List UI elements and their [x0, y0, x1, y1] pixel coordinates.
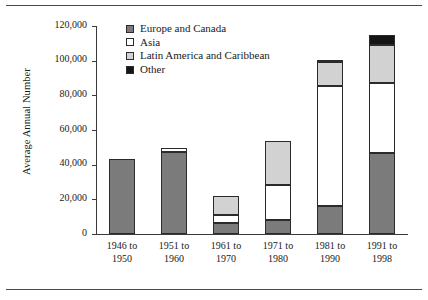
bar-segment[interactable]	[265, 220, 291, 234]
x-axis-tick-label: 1946 to1950	[96, 240, 148, 265]
figure: Average Annual Number 020,00040,00060,00…	[0, 0, 428, 300]
x-axis-tick-label: 1991 to1998	[356, 240, 408, 265]
x-axis-line	[96, 234, 408, 235]
bar-segment[interactable]	[161, 152, 187, 234]
stacked-bar[interactable]	[317, 26, 343, 234]
bar-segment[interactable]	[317, 206, 343, 234]
x-axis-tick-label: 1951 to1960	[148, 240, 200, 265]
bar-segment[interactable]	[317, 62, 343, 85]
legend-item[interactable]: Other	[126, 63, 270, 77]
bar-segment[interactable]	[317, 86, 343, 206]
bar-segment[interactable]	[109, 159, 135, 234]
y-axis-title: Average Annual Number	[21, 32, 32, 212]
bar-segment[interactable]	[213, 223, 239, 234]
figure-top-rule	[6, 5, 422, 6]
figure-bottom-rule	[6, 289, 422, 290]
legend-swatch-icon	[126, 66, 134, 74]
y-axis-tick-label: 80,000	[60, 88, 88, 99]
legend-swatch-icon	[126, 52, 134, 60]
legend-label: Europe and Canada	[140, 22, 226, 36]
bar-segment[interactable]	[161, 148, 187, 151]
y-axis-tick-label: 60,000	[60, 123, 88, 134]
x-axis-tick-label: 1981 to1990	[304, 240, 356, 265]
bar-segment[interactable]	[265, 141, 291, 184]
bar-group[interactable]	[369, 26, 395, 234]
legend-label: Asia	[140, 36, 160, 50]
legend: Europe and CanadaAsiaLatin America and C…	[126, 22, 270, 76]
y-axis-tick-label: 20,000	[60, 192, 88, 203]
bar-segment[interactable]	[213, 196, 239, 215]
y-axis-tick-label: 40,000	[60, 157, 88, 168]
bar-segment[interactable]	[317, 60, 343, 62]
legend-swatch-icon	[126, 25, 134, 33]
bar-segment[interactable]	[265, 185, 291, 221]
stacked-bar[interactable]	[369, 26, 395, 234]
bar-segment[interactable]	[369, 35, 395, 45]
y-axis-tick-label: 120,000	[55, 19, 88, 30]
bar-segment[interactable]	[369, 83, 395, 152]
y-axis-tick-label: 100,000	[55, 53, 88, 64]
y-axis-tick-label: 0	[82, 227, 87, 238]
bar-segment[interactable]	[213, 215, 239, 223]
legend-item[interactable]: Latin America and Caribbean	[126, 49, 270, 63]
legend-item[interactable]: Asia	[126, 36, 270, 50]
bar-group[interactable]	[317, 26, 343, 234]
bar-segment[interactable]	[369, 153, 395, 234]
x-axis-tick-label: 1971 to1980	[252, 240, 304, 265]
legend-label: Other	[140, 63, 165, 77]
legend-swatch-icon	[126, 38, 134, 46]
legend-item[interactable]: Europe and Canada	[126, 22, 270, 36]
legend-label: Latin America and Caribbean	[140, 49, 270, 63]
bar-segment[interactable]	[369, 45, 395, 83]
x-axis-tick-label: 1961 to1970	[200, 240, 252, 265]
